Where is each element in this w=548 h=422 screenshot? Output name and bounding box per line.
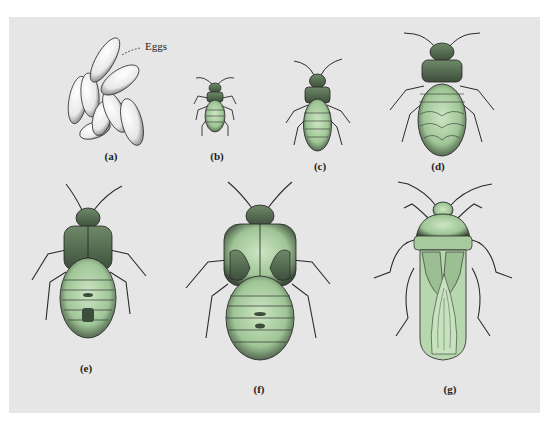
- label-d: (d): [431, 160, 444, 172]
- label-e: (e): [80, 362, 92, 374]
- nymph-e-illustration: [22, 180, 157, 360]
- label-a: (a): [105, 150, 118, 162]
- label-g: (g): [444, 383, 457, 395]
- nymph-b-illustration: [190, 70, 240, 145]
- nymph-c-illustration: [280, 55, 355, 160]
- label-b: (b): [210, 150, 223, 162]
- nymph-d-illustration: [382, 28, 502, 160]
- nymph-f-illustration: [180, 178, 340, 378]
- label-c: (c): [314, 160, 326, 172]
- adult-g-illustration: [368, 178, 518, 378]
- eggs-callout: Eggs: [145, 40, 167, 52]
- label-f: (f): [254, 383, 265, 395]
